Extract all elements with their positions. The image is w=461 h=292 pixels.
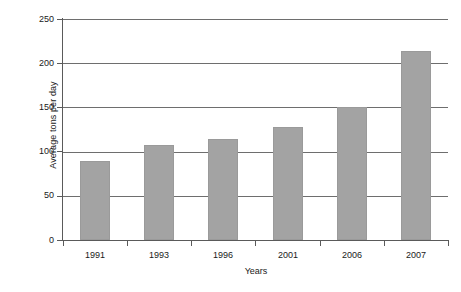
y-tick-label-0: 0 bbox=[14, 236, 54, 245]
x-tick-label-1991: 1991 bbox=[65, 250, 125, 260]
y-axis-labels: 250 200 150 100 50 0 bbox=[8, 0, 54, 292]
x-tick-label-2006: 2006 bbox=[322, 250, 382, 260]
x-tick-mark-0 bbox=[63, 241, 64, 246]
x-tick-mark-5 bbox=[384, 241, 385, 246]
bar-1991[interactable] bbox=[80, 161, 110, 240]
y-tick-label-150: 150 bbox=[14, 103, 54, 112]
x-tick-mark-4 bbox=[320, 241, 321, 246]
gridline-50 bbox=[63, 196, 448, 197]
y-tick-label-250: 250 bbox=[14, 15, 54, 24]
x-tick-label-1993: 1993 bbox=[129, 250, 189, 260]
x-tick-mark-3 bbox=[255, 241, 256, 246]
x-tick-mark-6 bbox=[448, 241, 449, 246]
x-tick-mark-2 bbox=[191, 241, 192, 246]
bar-2006[interactable] bbox=[337, 107, 367, 240]
gridline-100 bbox=[63, 152, 448, 153]
x-axis-title: Years bbox=[63, 266, 449, 276]
x-tick-mark-1 bbox=[127, 241, 128, 246]
x-tick-label-1996: 1996 bbox=[193, 250, 253, 260]
gridline-200 bbox=[63, 63, 448, 64]
bar-chart: Average tons per day 250 200 150 100 50 … bbox=[0, 0, 461, 292]
gridline-250 bbox=[63, 19, 448, 20]
bar-1996[interactable] bbox=[208, 139, 238, 240]
bar-1993[interactable] bbox=[144, 145, 174, 240]
x-tick-label-2001: 2001 bbox=[258, 250, 318, 260]
x-tick-label-2007: 2007 bbox=[386, 250, 446, 260]
y-tick-label-200: 200 bbox=[14, 59, 54, 68]
y-tick-label-100: 100 bbox=[14, 147, 54, 156]
bar-2001[interactable] bbox=[273, 127, 303, 240]
gridline-150 bbox=[63, 107, 448, 108]
y-tick-label-50: 50 bbox=[14, 191, 54, 200]
plot-area bbox=[63, 19, 448, 240]
bar-2007[interactable] bbox=[401, 51, 431, 240]
